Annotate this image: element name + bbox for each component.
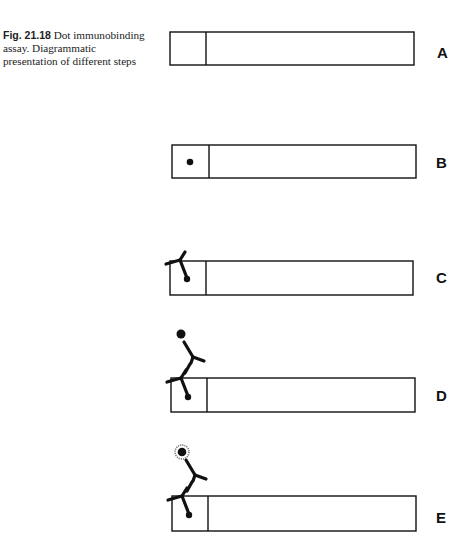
panel-d: D (167, 330, 447, 413)
panel-label-e: E (436, 509, 446, 526)
enzyme-label-icon (178, 448, 187, 457)
panel-label-c: C (436, 269, 447, 286)
enzyme-label-icon (177, 330, 186, 339)
panel-label-a: A (437, 44, 448, 61)
assay-diagram: A B C D (0, 0, 470, 550)
panel-c: C (166, 252, 447, 295)
panel-a: A (170, 32, 448, 65)
secondary-antibody-icon (184, 342, 204, 373)
panel-e: E (168, 445, 446, 531)
panel-b: B (172, 145, 447, 178)
panel-label-d: D (436, 387, 447, 404)
panel-label-b: B (436, 154, 447, 171)
secondary-antibody-icon (186, 460, 206, 491)
antigen-dot-icon (187, 159, 194, 166)
